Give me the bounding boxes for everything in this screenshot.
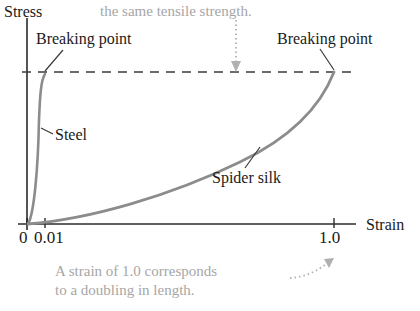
- bottom-caption-arrow-shaft: [290, 263, 327, 278]
- annotation-spider-silk: Spider silk: [212, 170, 281, 186]
- annotation-steel: Steel: [55, 127, 87, 143]
- caption-top: the same tensile strength.: [100, 2, 252, 21]
- stress-strain-figure: Stress Strain Breaking point Breaking po…: [0, 0, 420, 311]
- caption-bottom-line-1: A strain of 1.0 corresponds: [55, 262, 217, 281]
- top-caption-arrow-head: [231, 61, 241, 72]
- x-tick-label-001: 0.01: [34, 229, 64, 246]
- x-axis-title: Strain: [366, 217, 404, 233]
- steel-leader: [41, 128, 53, 134]
- spider-silk-curve: [28, 72, 334, 224]
- x-tick-label-10: 1.0: [319, 229, 340, 246]
- bottom-caption-arrow-head: [324, 258, 334, 268]
- x-tick-label-0: 0: [19, 229, 28, 246]
- breaking-point-left-leader: [45, 50, 63, 71]
- breaking-point-right-leader: [320, 49, 334, 70]
- caption-bottom: A strain of 1.0 corresponds to a doublin…: [55, 262, 217, 300]
- steel-curve: [28, 74, 45, 224]
- y-axis-title: Stress: [4, 4, 42, 20]
- caption-bottom-line-2: to a doubling in length.: [55, 281, 217, 300]
- annotation-breaking-point-spider-silk: Breaking point: [277, 31, 373, 47]
- annotation-breaking-point-steel: Breaking point: [36, 31, 132, 47]
